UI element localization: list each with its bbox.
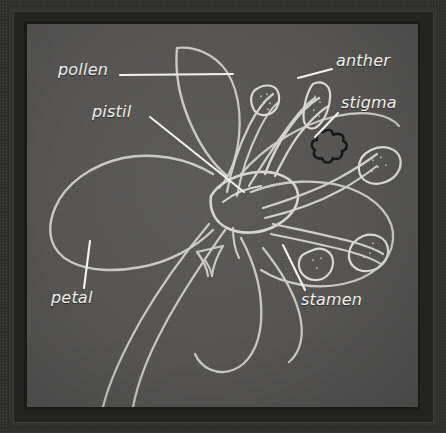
petal-lower-left-edge xyxy=(133,230,225,407)
stamen-filament-4b xyxy=(271,234,381,264)
label-anther: anther xyxy=(336,53,390,69)
label-pistil: pistil xyxy=(92,104,131,120)
chalkboard-canvas xyxy=(27,24,418,407)
anther-right-middle xyxy=(359,147,401,184)
leader-line-anther xyxy=(298,69,332,78)
anther-right-middle-texture xyxy=(372,157,386,172)
petal-left-large xyxy=(50,156,213,270)
leader-line-petal xyxy=(84,241,90,288)
pistil-style-edge xyxy=(275,106,329,176)
stamen-filament-4 xyxy=(273,224,383,254)
label-pollen: pollen xyxy=(58,62,108,78)
label-stigma: stigma xyxy=(341,95,397,111)
flower-line-drawing xyxy=(27,24,418,407)
leader-line-pollen xyxy=(120,74,233,75)
pistil-style xyxy=(265,98,319,174)
label-stamen: stamen xyxy=(301,292,362,308)
anther-bottom-right-texture xyxy=(313,258,321,269)
leader-line-pistil xyxy=(150,117,244,192)
petal-upper-center-edge xyxy=(177,48,240,188)
petal-lower-right-edge xyxy=(263,248,302,362)
diagram-stage: pollen pistil anther stigma petal stamen xyxy=(0,0,446,433)
petal-lower-left xyxy=(103,224,209,407)
petal-upper-center xyxy=(177,48,228,176)
anther-bottom-right xyxy=(299,249,333,280)
label-petal: petal xyxy=(51,290,93,306)
